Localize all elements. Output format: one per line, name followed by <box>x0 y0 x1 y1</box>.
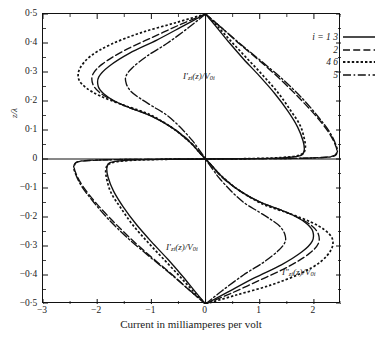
legend-item-label: i = 1 3 <box>312 32 338 42</box>
curve-annotation-lower-right: I″zi(z)/V0i <box>282 267 316 277</box>
y-tick-label: −0·5 <box>3 298 37 308</box>
legend-line-sample <box>342 58 376 66</box>
curve-right-mirror-1 <box>206 159 333 304</box>
legend-item-label: 4 6 <box>326 57 338 67</box>
y-tick-label: 0·4 <box>3 37 37 47</box>
legend-item-2: 2 <box>288 44 376 57</box>
legend-item-3: 4 6 <box>288 56 376 69</box>
legend-line-sample <box>342 46 376 54</box>
x-tick-label: 0 <box>202 305 207 315</box>
x-tick-label: 1 <box>256 305 261 315</box>
legend-line-sample <box>342 71 376 79</box>
x-tick-label: −3 <box>37 305 47 315</box>
plot-area: I′zi(z)/V0i I′zi(z)/V0i I″zi(z)/V0i i = … <box>42 13 340 303</box>
legend-item-label: 2 <box>333 45 338 55</box>
curve-left-mirror-4 <box>74 159 206 304</box>
curve-right-mirror-3 <box>206 159 320 304</box>
x-tick-label: 2 <box>311 305 316 315</box>
curve-annotation-lower-left: I′zi(z)/V0i <box>166 242 198 252</box>
curve-left-mirror-3 <box>74 159 205 304</box>
y-tick-label: 0 <box>3 153 37 163</box>
y-tick-label: 0·2 <box>3 95 37 105</box>
x-tick-label: −1 <box>145 305 155 315</box>
y-tick-label: 0·5 <box>3 8 37 18</box>
curve-left-3 <box>92 14 206 159</box>
curve-annotation-upper-left: I′zi(z)/V0i <box>183 71 215 81</box>
y-tick-label: −0·3 <box>3 240 37 250</box>
y-tick-label: 0·1 <box>3 124 37 134</box>
legend-line-sample <box>342 33 376 41</box>
y-tick-label: −0·4 <box>3 269 37 279</box>
legend-item-1: i = 1 3 <box>288 31 376 44</box>
y-tick-label: −0·2 <box>3 211 37 221</box>
legend: i = 1 324 65 <box>286 28 378 83</box>
x-axis-title: Current in milliamperes per volt <box>42 318 340 330</box>
y-tick-label: −0·1 <box>3 182 37 192</box>
x-tick-label: −2 <box>91 305 101 315</box>
y-tick-label: 0·3 <box>3 66 37 76</box>
legend-item-label: 5 <box>333 70 338 80</box>
legend-item-4: 5 <box>288 69 376 82</box>
curve-left-1 <box>78 14 205 159</box>
